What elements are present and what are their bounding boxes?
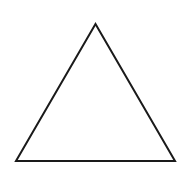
triangle-shape xyxy=(16,24,175,161)
diagram-canvas xyxy=(0,0,177,172)
